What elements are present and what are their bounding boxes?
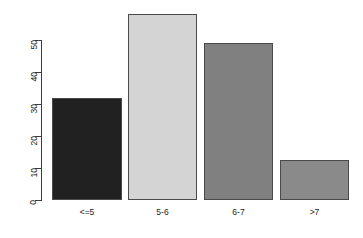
bar — [52, 98, 122, 200]
y-axis-tick-label: 30 — [30, 104, 39, 113]
x-axis-category-label: <=5 — [52, 208, 122, 217]
y-axis-tick-label-wrap: 0 — [33, 200, 34, 201]
y-axis-tick-label-wrap: 10 — [33, 168, 34, 169]
y-axis-tick-label: 20 — [30, 136, 39, 145]
y-axis-tick-label: 0 — [30, 200, 39, 205]
y-axis-tick-label: 50 — [30, 40, 39, 49]
bar — [128, 14, 197, 200]
plot-area: 01020304050 <=55-66-7>7 — [0, 0, 363, 238]
bar-chart: 01020304050 <=55-66-7>7 — [0, 0, 363, 238]
bar — [280, 160, 349, 200]
y-axis-tick-label: 40 — [30, 72, 39, 81]
x-axis-category-label: 6-7 — [204, 208, 273, 217]
x-axis-category-label: >7 — [280, 208, 349, 217]
y-axis-line — [41, 40, 42, 201]
bar — [204, 43, 273, 200]
x-axis-category-label: 5-6 — [128, 208, 197, 217]
y-axis-tick-label-wrap: 30 — [33, 104, 34, 105]
y-axis-tick-label-wrap: 40 — [33, 72, 34, 73]
y-axis-tick-label-wrap: 20 — [33, 136, 34, 137]
y-axis-tick-label: 10 — [30, 168, 39, 177]
y-axis-tick-label-wrap: 50 — [33, 40, 34, 41]
